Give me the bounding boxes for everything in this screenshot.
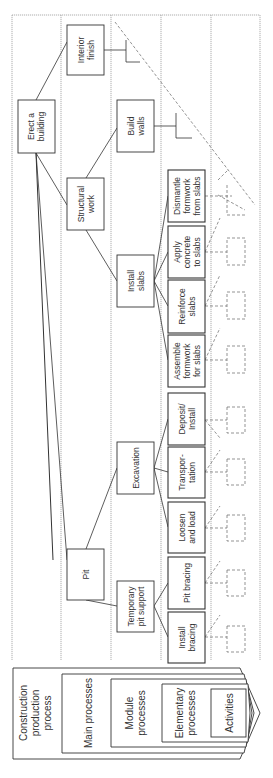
svg-text:Loosenand load: Loosenand load bbox=[177, 511, 197, 544]
svg-text:Dismantleformworkfrom slabs: Dismantleformworkfrom slabs bbox=[172, 176, 202, 215]
svg-text:Elementaryprocesses: Elementaryprocesses bbox=[174, 688, 197, 739]
svg-text:Buildwalls: Buildwalls bbox=[126, 116, 146, 136]
svg-text:Moduleprocesses: Moduleprocesses bbox=[124, 690, 147, 736]
svg-text:Installslabs: Installslabs bbox=[126, 270, 146, 292]
svg-text:Assembleformworkfor slabs: Assembleformworkfor slabs bbox=[172, 342, 202, 380]
svg-text:Excavation: Excavation bbox=[131, 447, 141, 489]
svg-text:Activities: Activities bbox=[224, 693, 235, 732]
svg-text:Erect abuilding: Erect abuilding bbox=[26, 112, 46, 142]
svg-text:Pit bracing: Pit bracing bbox=[182, 563, 192, 603]
svg-text:Installbracing: Installbracing bbox=[177, 623, 197, 651]
process-hierarchy-diagram: Erect abuilding Interiorfinish Structura… bbox=[0, 0, 273, 778]
svg-text:Interiorfinish: Interiorfinish bbox=[76, 37, 96, 64]
svg-text:Main processes: Main processes bbox=[83, 678, 94, 748]
svg-text:Pit: Pit bbox=[81, 569, 91, 580]
svg-text:Temporarypit support: Temporarypit support bbox=[126, 586, 146, 627]
